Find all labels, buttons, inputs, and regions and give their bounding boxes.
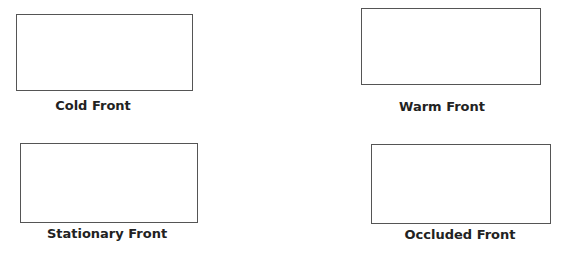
stationary-front-label: Stationary Front bbox=[47, 226, 167, 241]
warm-front-drawing-box bbox=[361, 8, 541, 85]
warm-front-label: Warm Front bbox=[399, 99, 485, 114]
cold-front-drawing-box bbox=[16, 14, 193, 91]
occluded-front-label: Occluded Front bbox=[405, 227, 516, 242]
occluded-front-drawing-box bbox=[371, 144, 551, 224]
stationary-front-drawing-box bbox=[20, 143, 198, 223]
cold-front-label: Cold Front bbox=[55, 98, 131, 113]
